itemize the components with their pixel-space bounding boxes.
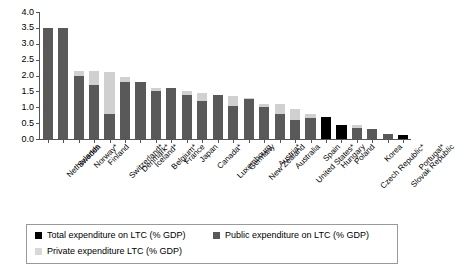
x-axis-tick-mark — [326, 140, 327, 143]
bar-segment-public — [213, 95, 223, 139]
y-axis-tick-label: 3.0 — [21, 39, 34, 48]
legend-item-total: Total expenditure on LTC (% GDP) — [35, 230, 185, 240]
bar-group[interactable] — [151, 88, 161, 139]
x-axis-tick-mark — [63, 140, 64, 143]
bar-segment-public — [259, 107, 269, 139]
x-axis-tick-mark — [341, 140, 342, 143]
y-axis-tick-mark — [36, 44, 40, 45]
x-axis-tick-mark — [187, 140, 188, 143]
bar-group[interactable] — [197, 93, 207, 139]
y-axis-tick-mark — [36, 107, 40, 108]
bar-group[interactable] — [259, 104, 269, 139]
bar-group[interactable] — [336, 125, 346, 139]
legend-item-private: Private expenditure LTC (% GDP) — [35, 246, 182, 256]
bar-group[interactable] — [290, 109, 300, 139]
x-axis-tick-mark — [79, 140, 80, 143]
x-axis-tick-mark — [140, 140, 141, 143]
bar-segment-public — [104, 114, 114, 139]
x-axis-tick-labels: NetherlandsSwedenNorway*FinlandSwitzerla… — [0, 143, 415, 215]
y-axis-tick-mark — [36, 28, 40, 29]
bar-group[interactable] — [228, 96, 238, 139]
bar-group[interactable] — [367, 129, 377, 139]
legend-label-total: Total expenditure on LTC (% GDP) — [47, 230, 185, 240]
x-axis-tick-mark — [202, 140, 203, 143]
y-axis-tick-mark — [36, 76, 40, 77]
x-axis-tick-mark — [403, 140, 404, 143]
bar-series-container — [40, 12, 411, 139]
bar-group[interactable] — [275, 104, 285, 139]
bar-group[interactable] — [321, 117, 331, 139]
bar-segment-public — [43, 28, 53, 139]
x-axis-tick-mark — [218, 140, 219, 143]
bar-group[interactable] — [135, 82, 145, 139]
y-axis-tick-label: 3.5 — [21, 23, 34, 32]
bar-group[interactable] — [352, 125, 362, 139]
bar-segment-public — [275, 114, 285, 139]
x-axis-tick-mark — [249, 140, 250, 143]
bar-group[interactable] — [166, 88, 176, 139]
bar-segment-private — [197, 93, 207, 101]
bar-group[interactable] — [120, 77, 130, 139]
y-axis-tick-label: 1.5 — [21, 87, 34, 96]
bar-group[interactable] — [213, 95, 223, 139]
y-axis-tick-label: 2.5 — [21, 55, 34, 64]
x-axis-tick-mark — [233, 140, 234, 143]
bar-segment-public — [74, 76, 84, 140]
bar-segment-public — [305, 118, 315, 139]
bar-segment-total — [398, 135, 408, 139]
bar-group[interactable] — [43, 28, 53, 139]
bar-group[interactable] — [89, 71, 99, 139]
x-axis-tick-mark — [264, 140, 265, 143]
legend-item-public: Public expenditure on LTC (% GDP) — [213, 230, 369, 240]
bar-group[interactable] — [305, 114, 315, 139]
y-axis-tick-mark — [36, 139, 40, 140]
bar-segment-public — [120, 82, 130, 139]
bar-segment-public — [135, 82, 145, 139]
bar-segment-total — [321, 117, 331, 139]
legend-label-public: Public expenditure on LTC (% GDP) — [225, 230, 369, 240]
bar-segment-public — [89, 85, 99, 139]
bar-segment-public — [197, 101, 207, 139]
x-axis-tick-label: Canada* — [216, 143, 244, 171]
y-axis-tick-mark — [36, 12, 40, 13]
y-axis-tick-label: 1.0 — [21, 103, 34, 112]
bar-segment-public — [228, 106, 238, 139]
x-axis-tick-mark — [295, 140, 296, 143]
x-axis-tick-mark — [357, 140, 358, 143]
y-axis-tick-label: 2.0 — [21, 71, 34, 80]
y-axis-tick-mark — [36, 91, 40, 92]
legend-swatch-public-icon — [213, 232, 220, 239]
bar-group[interactable] — [104, 72, 114, 139]
bar-segment-private — [104, 72, 114, 113]
y-axis-tick-mark — [36, 60, 40, 61]
x-axis-tick-mark — [110, 140, 111, 143]
bar-segment-public — [151, 91, 161, 139]
bar-segment-public — [166, 88, 176, 139]
bar-segment-total — [336, 125, 346, 139]
x-axis-tick-mark — [156, 140, 157, 143]
bar-group[interactable] — [58, 28, 68, 139]
bar-group[interactable] — [244, 98, 254, 139]
x-axis-tick-mark — [48, 140, 49, 143]
y-axis-tick-label: 0.5 — [21, 119, 34, 128]
bar-group[interactable] — [182, 91, 192, 139]
bar-group[interactable] — [74, 71, 84, 139]
y-axis-tick-label: 4.0 — [21, 8, 34, 17]
x-axis-tick-mark — [94, 140, 95, 143]
bar-segment-public — [182, 95, 192, 139]
bar-group[interactable] — [383, 134, 393, 139]
legend-swatch-total-icon — [35, 232, 42, 239]
bar-segment-private — [228, 96, 238, 106]
bar-segment-private — [290, 109, 300, 120]
bar-group[interactable] — [398, 135, 408, 139]
bar-segment-public — [290, 120, 300, 139]
bar-segment-public — [383, 134, 393, 139]
plot-area: 0.00.51.01.52.02.53.03.54.0 NetherlandsS… — [0, 0, 415, 220]
legend-label-private: Private expenditure LTC (% GDP) — [47, 246, 182, 256]
bar-segment-public — [244, 99, 254, 139]
x-axis-tick-mark — [125, 140, 126, 143]
x-axis-tick-mark — [280, 140, 281, 143]
bar-segment-public — [352, 128, 362, 139]
bar-segment-private — [89, 71, 99, 85]
